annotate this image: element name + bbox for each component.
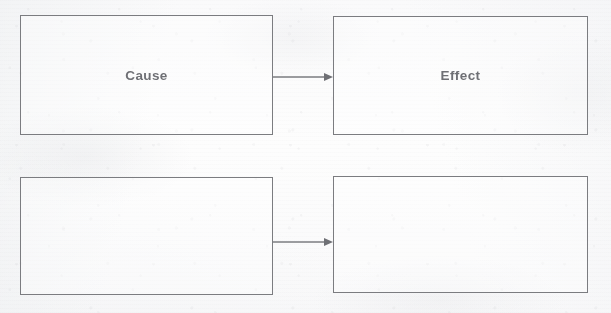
diagram-canvas: Cause Effect <box>0 0 611 313</box>
arrow-right-icon <box>272 236 334 248</box>
arrow-right-icon <box>272 71 334 83</box>
effect-box-label-row-1: Effect <box>441 68 481 83</box>
cause-box-row-1[interactable]: Cause <box>20 15 273 135</box>
effect-box-row-2[interactable] <box>333 176 588 293</box>
effect-box-row-1[interactable]: Effect <box>333 16 588 135</box>
cause-box-row-2[interactable] <box>20 177 273 295</box>
connector-arrow-row-2 <box>272 234 334 246</box>
connector-arrow-row-1 <box>272 69 334 81</box>
cause-box-label-row-1: Cause <box>125 68 168 83</box>
